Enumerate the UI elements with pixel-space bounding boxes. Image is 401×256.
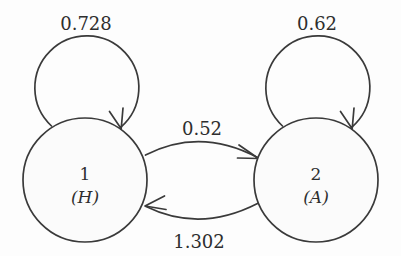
- state-node-2-number: 2: [311, 164, 322, 184]
- transition-arrow-2-to-1: [145, 196, 258, 219]
- self-loop-node-1: [35, 36, 139, 129]
- state-node-1-number: 1: [80, 164, 91, 184]
- transition-arrowhead-1-to-2: [238, 145, 259, 159]
- self-loop-2-weight-label: 0.62: [297, 13, 337, 34]
- state-node-1-symbol: (H): [71, 187, 99, 207]
- transition-1-to-2-weight-label: 0.52: [182, 118, 222, 139]
- state-node-1[interactable]: 1 (H): [23, 118, 147, 242]
- transition-arc-1-to-2: [146, 142, 258, 158]
- state-node-2-symbol: (A): [303, 187, 329, 207]
- self-loop-1-weight-label: 0.728: [60, 13, 112, 34]
- diagram-canvas: 1 (H) 2 (A) 0.728 0.62 0.52 1.302: [0, 0, 401, 256]
- state-node-2[interactable]: 2 (A): [254, 118, 378, 242]
- transition-arrow-1-to-2: [146, 142, 259, 159]
- transition-arc-2-to-1: [146, 204, 258, 220]
- state-transition-diagram: 1 (H) 2 (A) 0.728 0.62 0.52 1.302: [0, 0, 401, 256]
- transition-2-to-1-weight-label: 1.302: [173, 231, 225, 252]
- self-loop-node-2: [266, 36, 370, 129]
